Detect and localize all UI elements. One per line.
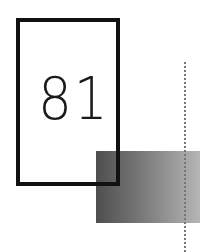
number-label: 81 [38,70,110,128]
dotted-vertical-line [184,62,186,252]
